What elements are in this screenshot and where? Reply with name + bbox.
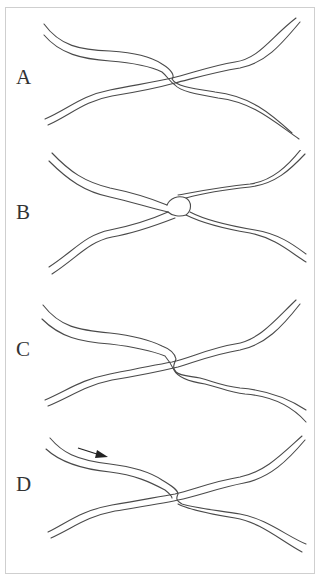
crossing-strands-b bbox=[0, 150, 322, 295]
crossing-strands-d bbox=[0, 434, 322, 579]
panel-d: D bbox=[0, 434, 322, 579]
panel-b: B bbox=[0, 150, 322, 295]
direction-arrow-icon bbox=[78, 448, 108, 458]
panel-a: A bbox=[0, 8, 322, 153]
crossing-strands-a bbox=[0, 8, 322, 153]
crossing-strands-c bbox=[0, 292, 322, 437]
panel-c: C bbox=[0, 292, 322, 437]
